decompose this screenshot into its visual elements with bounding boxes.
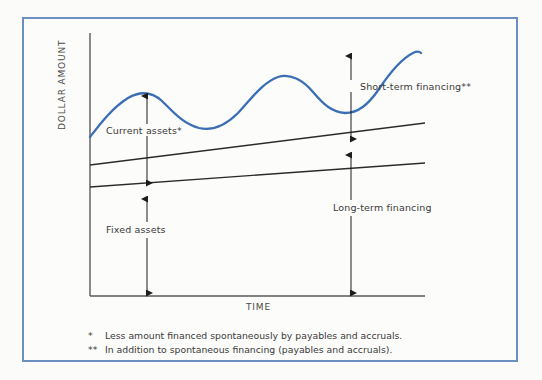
footnote-row: * Less amount financed spontaneously by …: [88, 329, 402, 343]
footnote-marker: **: [88, 343, 105, 357]
label-current-assets: Current assets*: [106, 126, 182, 136]
footnote-marker: *: [88, 329, 105, 343]
label-long-term-financing: Long-term financing: [333, 203, 432, 213]
x-axis-title: TIME: [246, 303, 271, 313]
figure-page: DOLLAR AMOUNT TIME Current assets* Fixed…: [0, 0, 542, 380]
footnote-text: In addition to spontaneous financing (pa…: [105, 343, 392, 357]
fixed-assets-trend-line: [90, 163, 425, 187]
footnote-text: Less amount financed spontaneously by pa…: [105, 329, 402, 343]
footnote-row: ** In addition to spontaneous financing …: [88, 343, 402, 357]
axis-group: [90, 33, 425, 296]
label-fixed-assets: Fixed assets: [106, 225, 166, 235]
label-short-term-financing: Short-term financing**: [360, 82, 471, 92]
y-axis-title: DOLLAR AMOUNT: [58, 40, 68, 130]
diagram-canvas: [0, 0, 542, 380]
footnotes: * Less amount financed spontaneously by …: [88, 329, 402, 358]
